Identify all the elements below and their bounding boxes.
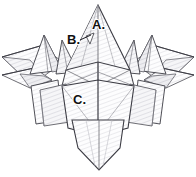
label-c: C. [73, 92, 86, 107]
label-b: B. [67, 32, 80, 47]
origami-line-drawing: A. B. C. [0, 0, 196, 177]
label-a: A. [92, 17, 105, 32]
origami-diagram-figure: A. B. C. [0, 0, 196, 177]
